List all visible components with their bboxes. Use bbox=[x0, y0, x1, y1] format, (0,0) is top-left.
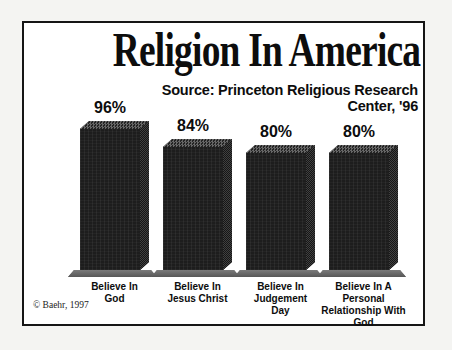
bar-top-face bbox=[163, 139, 232, 147]
bar-top-face bbox=[80, 121, 149, 129]
bar-platform bbox=[317, 270, 406, 277]
bar-value-label: 80% bbox=[236, 123, 316, 141]
bar-platform bbox=[68, 270, 157, 277]
bar-value-label: 96% bbox=[70, 99, 150, 117]
plot-area: 96%Believe In God84%Believe In Jesus Chr… bbox=[24, 23, 423, 324]
bar-value-label: 80% bbox=[319, 123, 399, 141]
bar-front-face bbox=[163, 147, 223, 270]
bar-column bbox=[163, 139, 232, 270]
bar-front-face bbox=[329, 153, 389, 270]
chart-frame: Religion In America Source: Princeton Re… bbox=[22, 21, 425, 326]
bar-category-label: Believe In A Personal Relationship With … bbox=[304, 281, 424, 329]
bar-top-face bbox=[246, 145, 315, 153]
scanned-chart-page: { "page": { "copyright": "© Baehr, 1997"… bbox=[0, 0, 452, 350]
bar-front-face bbox=[80, 129, 140, 270]
bar-column bbox=[80, 121, 149, 270]
bar-platform bbox=[151, 270, 240, 277]
bar-top-face bbox=[329, 145, 398, 153]
bar-platform bbox=[234, 270, 323, 277]
bar-value-label: 84% bbox=[153, 117, 233, 135]
bar-front-face bbox=[246, 153, 306, 270]
bar-column bbox=[329, 145, 398, 270]
bar-column bbox=[246, 145, 315, 270]
copyright-notice: © Baehr, 1997 bbox=[33, 300, 89, 310]
